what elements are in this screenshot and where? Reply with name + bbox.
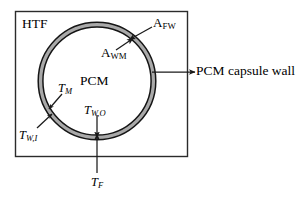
label-temp-wo: TW,O bbox=[84, 104, 106, 118]
afw-leader-line bbox=[130, 27, 153, 40]
figure-canvas: HTF AFW AWM PCM TM TW,O TW,I TF PCM caps… bbox=[0, 0, 308, 197]
label-area-wm-symbol: A bbox=[101, 45, 110, 60]
label-temp-wi-symbol: T bbox=[19, 128, 26, 142]
label-temp-wo-subscript: W,O bbox=[91, 108, 106, 118]
label-temp-f-symbol: T bbox=[91, 175, 98, 189]
label-area-wm-subscript: WM bbox=[110, 51, 126, 61]
label-temp-m: TM bbox=[58, 82, 72, 96]
twi-leader-line bbox=[37, 114, 52, 128]
label-area-fw-subscript: FW bbox=[162, 21, 175, 31]
label-temp-m-symbol: T bbox=[58, 81, 65, 95]
label-temp-wi-subscript: W,I bbox=[26, 133, 38, 143]
label-temp-f: TF bbox=[91, 176, 103, 190]
label-area-wm: AWM bbox=[101, 46, 127, 61]
label-temp-m-subscript: M bbox=[65, 86, 72, 96]
label-htf: HTF bbox=[22, 17, 48, 31]
label-capsule-wall: PCM capsule wall bbox=[196, 64, 295, 78]
tm-leader-line bbox=[49, 94, 62, 109]
label-pcm: PCM bbox=[80, 74, 109, 88]
label-temp-wi: TW,I bbox=[19, 129, 38, 143]
label-temp-f-subscript: F bbox=[98, 180, 103, 190]
label-area-fw-symbol: A bbox=[153, 15, 162, 30]
label-area-fw: AFW bbox=[153, 16, 176, 31]
label-temp-wo-symbol: T bbox=[84, 103, 91, 117]
